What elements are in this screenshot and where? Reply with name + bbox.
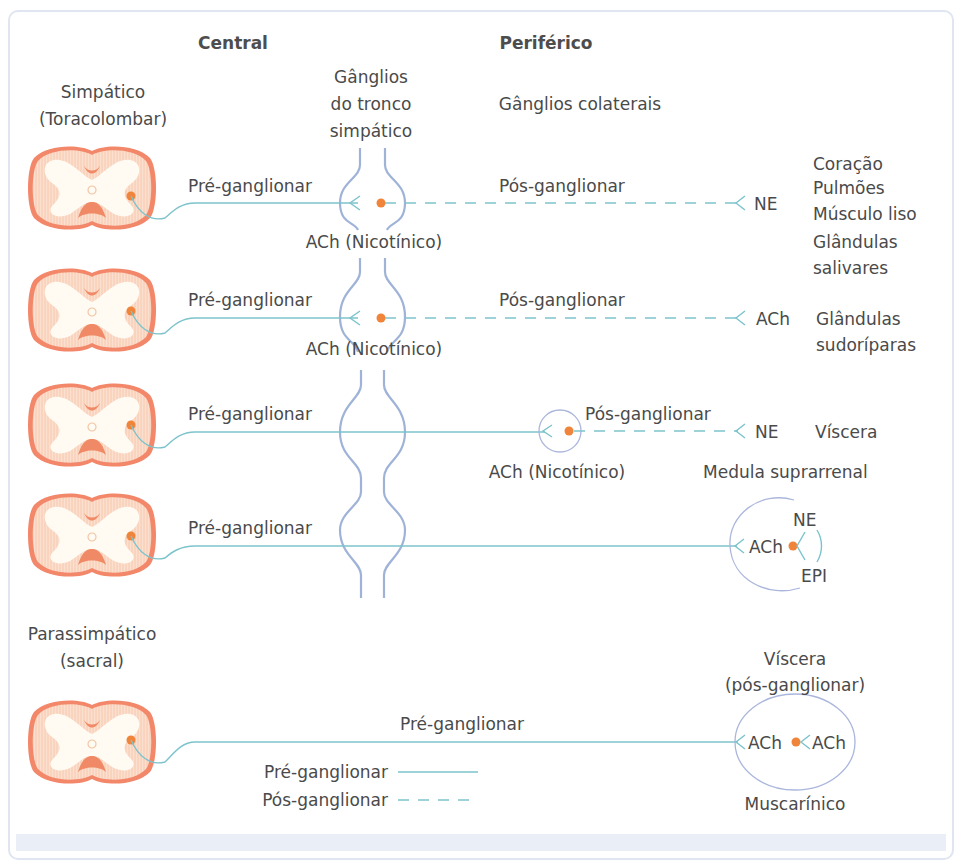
trunk-ganglia-label-1: Gânglios (334, 67, 408, 87)
row4-output-ne: NE (793, 510, 816, 530)
legend-pre-label: Pré-ganglionar (264, 762, 388, 782)
row1-target-5: salivares (813, 258, 888, 278)
row1-post-label: Pós-ganglionar (499, 176, 625, 196)
row2-post-label: Pós-ganglionar (499, 290, 625, 310)
row1-target-2: Pulmões (813, 178, 885, 198)
parasympathetic-title: Parassimpático (28, 624, 157, 644)
sympathetic-title: Simpático (61, 82, 145, 102)
row1-target-3: Músculo liso (813, 204, 917, 224)
viscera-sublabel: (pós-ganglionar) (725, 675, 865, 695)
row1-transmitter: NE (754, 194, 777, 214)
row3-target-title: Medula suprarrenal (703, 462, 868, 482)
row3-target-1: Víscera (815, 422, 877, 442)
row1-target-4: Glândulas (813, 232, 898, 252)
spinal-cord-section (28, 493, 156, 576)
row4-transmitter: ACh (749, 537, 783, 557)
spinal-cord-section (28, 146, 156, 229)
row3-pre-label: Pré-ganglionar (188, 404, 312, 424)
parasympathetic-subtitle: (sacral) (60, 651, 124, 671)
spinal-cord-section (28, 268, 156, 351)
parasympathetic-transmitter-post: ACh (812, 733, 846, 753)
spinal-cord-section (28, 700, 156, 783)
collateral-ganglia-label: Gânglios colaterais (499, 94, 661, 114)
spinal-cord-section (28, 383, 156, 466)
ganglion-neuron-dot (377, 199, 386, 208)
legend-post-label: Pós-ganglionar (262, 790, 388, 810)
legend: Pré-ganglionar Pós-ganglionar (262, 762, 478, 810)
row1-pre-label: Pré-ganglionar (188, 176, 312, 196)
viscera-label: Víscera (764, 649, 826, 669)
row3-post-label: Pós-ganglionar (585, 404, 711, 424)
row2-target-2: sudoríparas (816, 335, 916, 355)
row4-pre-label: Pré-ganglionar (188, 518, 312, 538)
row2-transmitter: ACh (756, 309, 790, 329)
receptor-muscarinic: Muscarínico (744, 794, 845, 814)
header-central: Central (198, 33, 268, 53)
row2-receptor: ACh (Nicotínico) (306, 339, 442, 359)
header-peripheral: Periférico (499, 33, 592, 53)
chromaffin-dot (789, 542, 798, 551)
viscera-neuron-dot (792, 738, 801, 747)
sympathetic-trunk (340, 148, 405, 598)
row2-pre-label: Pré-ganglionar (188, 290, 312, 310)
sympathetic-subtitle: (Toracolombar) (39, 109, 167, 129)
row1-receptor: ACh (Nicotínico) (306, 232, 442, 252)
ganglion-neuron-dot (565, 427, 574, 436)
row4-output-epi: EPI (801, 566, 827, 586)
parasympathetic-transmitter-pre: ACh (748, 733, 782, 753)
ganglion-neuron-dot (377, 314, 386, 323)
trunk-ganglia-label-3: simpático (330, 121, 413, 141)
row3-receptor: ACh (Nicotínico) (489, 462, 625, 482)
trunk-ganglia-label-2: do tronco (331, 94, 412, 114)
row1-target-1: Coração (813, 154, 883, 174)
parasympathetic-pre-label: Pré-ganglionar (400, 714, 524, 734)
row3-transmitter: NE (755, 422, 778, 442)
row2-target-1: Glândulas (816, 309, 901, 329)
